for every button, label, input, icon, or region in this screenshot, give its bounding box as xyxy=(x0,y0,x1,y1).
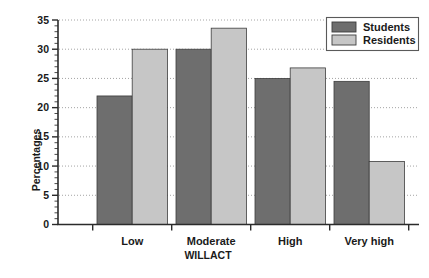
y-tick-label: 35 xyxy=(37,14,49,26)
bar-students-very-high xyxy=(334,81,369,224)
y-tick-label: 30 xyxy=(37,43,49,55)
legend-swatch-residents xyxy=(332,35,356,45)
x-category-label: Very high xyxy=(344,235,394,247)
x-category-label: Low xyxy=(121,235,143,247)
bar-residents-moderate xyxy=(211,28,246,224)
y-tick-label: 20 xyxy=(37,101,49,113)
bar-students-moderate xyxy=(176,49,211,224)
x-category-label: High xyxy=(278,235,303,247)
bar-students-high xyxy=(255,78,290,224)
legend-swatch-students xyxy=(332,22,356,32)
y-tick-label: 5 xyxy=(43,189,49,201)
bar-students-low xyxy=(97,96,132,225)
legend-label-residents: Residents xyxy=(363,34,416,46)
y-tick-label: 25 xyxy=(37,72,49,84)
legend-label-students: Students xyxy=(363,21,410,33)
bar-residents-low xyxy=(132,49,167,224)
x-axis-title: WILLACT xyxy=(184,249,232,261)
x-category-label: Moderate xyxy=(187,235,236,247)
y-axis-title: Percentages xyxy=(30,129,42,192)
chart-legend: Students Residents xyxy=(327,18,419,51)
bar-chart-figure: 05101520253035 LowModerateHighVery high … xyxy=(0,0,429,278)
bar-residents-high xyxy=(290,68,325,225)
chart-canvas: 05101520253035 LowModerateHighVery high … xyxy=(0,0,429,278)
y-tick-label: 0 xyxy=(43,218,49,230)
bar-residents-very-high xyxy=(369,161,404,224)
